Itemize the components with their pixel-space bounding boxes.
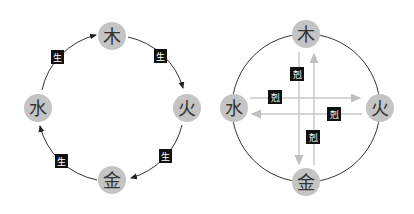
svg-text:木: 木 [297, 24, 315, 45]
svg-text:剋: 剋 [293, 70, 302, 80]
svg-text:水: 水 [225, 98, 243, 119]
label-ke-1: 剋 [290, 67, 304, 81]
label-ke-2: 剋 [306, 130, 320, 144]
overcoming-cycle: 剋 剋 剋 剋 木 火 金 水 [220, 20, 394, 196]
label-sheng-3: 生 [55, 154, 68, 168]
svg-text:剋: 剋 [271, 93, 280, 103]
node-wood-right: 木 [292, 20, 320, 48]
svg-text:剋: 剋 [309, 133, 318, 143]
svg-text:木: 木 [103, 26, 121, 47]
outer-ring [232, 34, 380, 182]
svg-text:金: 金 [103, 170, 121, 191]
arrow-fire-to-metal [131, 125, 182, 178]
svg-text:剋: 剋 [330, 110, 339, 120]
svg-text:生: 生 [57, 156, 66, 167]
node-wood-left: 木 [98, 22, 126, 50]
svg-text:水: 水 [29, 98, 47, 119]
label-sheng-4: 生 [51, 50, 64, 64]
node-water-right: 水 [220, 94, 248, 122]
label-ke-4: 剋 [327, 107, 341, 121]
svg-text:火: 火 [371, 98, 389, 119]
arrow-metal-to-water [40, 126, 97, 180]
node-fire-right: 火 [366, 94, 394, 122]
label-sheng-1: 生 [154, 49, 167, 63]
svg-text:金: 金 [297, 172, 315, 193]
label-ke-3: 剋 [268, 90, 282, 104]
label-sheng-2: 生 [159, 149, 172, 163]
generating-cycle: 生 生 生 生 木 火 金 水 [24, 22, 201, 194]
svg-text:生: 生 [156, 51, 165, 62]
svg-text:生: 生 [161, 151, 170, 162]
node-water-left: 水 [24, 94, 52, 122]
node-metal-right: 金 [292, 168, 320, 196]
arrow-water-to-wood [42, 35, 96, 90]
svg-text:火: 火 [178, 98, 196, 119]
node-metal-left: 金 [98, 166, 126, 194]
svg-text:生: 生 [53, 52, 62, 63]
five-elements-diagram: 生 生 生 生 木 火 金 水 剋 剋 剋 剋 木 火 金 水 [0, 0, 414, 214]
node-fire-left: 火 [173, 94, 201, 122]
